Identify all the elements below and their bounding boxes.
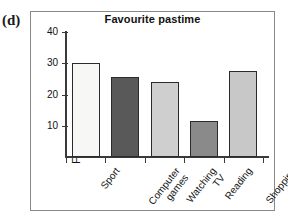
x-axis-tick: [184, 158, 185, 163]
x-axis-tick: [66, 158, 67, 163]
figure-part-label: (d): [2, 13, 20, 28]
x-axis-tick: [145, 158, 146, 163]
y-axis-tick-label: 10: [47, 120, 58, 131]
plot-area: [66, 32, 263, 157]
x-axis-tick: [105, 158, 106, 163]
bar: [72, 63, 100, 157]
chart-title: Favourite pastime: [30, 13, 275, 25]
bar: [190, 121, 218, 157]
x-axis-tick: [263, 158, 264, 163]
y-axis-tick-label: 20: [47, 89, 58, 100]
y-axis-tick-label: 40: [47, 26, 58, 37]
bar: [111, 77, 139, 157]
y-axis-tick-label: 30: [47, 57, 58, 68]
x-axis-tick: [224, 158, 225, 163]
bar: [229, 71, 257, 157]
chart-screenshot: (d) Favourite pastime Frequency 10203040…: [0, 0, 288, 224]
bar: [151, 82, 179, 157]
